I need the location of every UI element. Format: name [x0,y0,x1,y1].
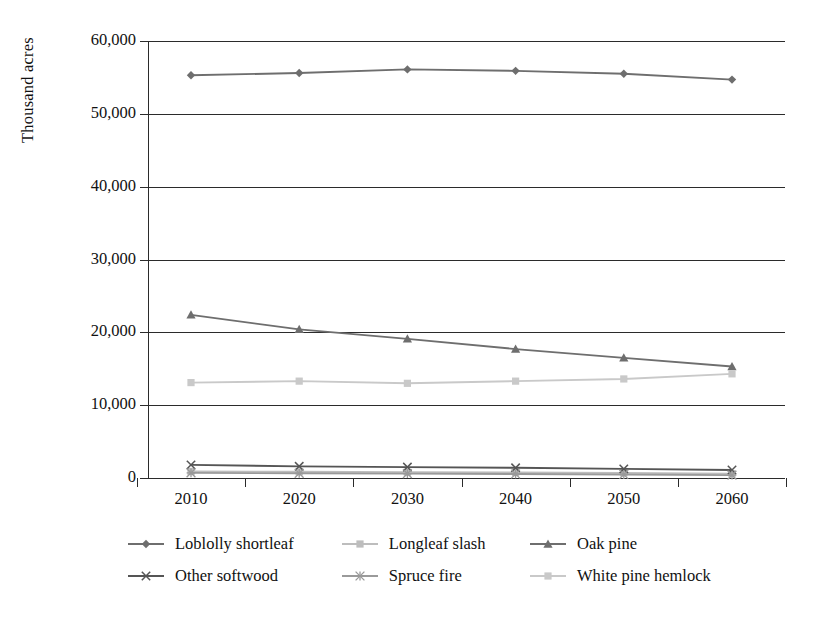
y-tick-mark [140,41,148,42]
y-tick-label: 40,000 [36,176,136,196]
x-tick-label: 2030 [362,489,452,509]
x-tick-label: 2020 [254,489,344,509]
y-tick-mark [140,114,148,115]
x-tick-mark [786,478,787,487]
y-tick-label: 10,000 [36,394,136,414]
legend-marker-diamond-icon [126,536,166,552]
x-tick-mark [245,478,246,487]
data-point-marker [544,572,551,579]
x-tick-label: 2050 [579,489,669,509]
gridline [148,187,785,188]
x-axis-line [148,478,785,479]
x-tick-mark [462,478,463,487]
y-tick-mark [140,260,148,261]
chart-legend: Loblolly shortleafLongleaf slashOak pine… [126,528,726,592]
gridline [148,260,785,261]
x-tick-label: 2010 [146,489,236,509]
data-point-marker [356,540,363,547]
data-point-marker [142,540,150,548]
gridline [148,41,785,42]
gridline [148,405,785,406]
data-point-marker [355,572,364,581]
y-tick-mark [140,405,148,406]
x-tick-mark [570,478,571,487]
legend-item[interactable]: Other softwood [126,568,340,585]
y-axis-line [148,41,149,478]
legend-item[interactable]: Spruce fire [340,568,528,585]
y-tick-mark [140,332,148,333]
gridline [148,114,785,115]
legend-marker-square-icon [528,568,568,584]
legend-label: Longleaf slash [389,536,486,553]
chart-figure: Thousand acres 010,00020,00030,00040,000… [0,0,814,627]
legend-marker-square-icon [340,536,380,552]
legend-row: Other softwoodSpruce fireWhite pine heml… [126,560,726,592]
legend-label: Other softwood [175,568,278,585]
y-tick-label: 50,000 [36,103,136,123]
x-tick-mark [678,478,679,487]
gridline [148,332,785,333]
x-tick-mark [137,478,138,487]
legend-marker-star-icon [340,568,380,584]
y-tick-mark [140,478,148,479]
y-tick-label: 60,000 [36,30,136,50]
y-tick-label: 0 [36,467,136,487]
legend-label: Oak pine [577,536,637,553]
legend-label: White pine hemlock [577,568,711,585]
y-tick-label: 20,000 [36,321,136,341]
legend-label: Loblolly shortleaf [175,536,294,553]
legend-item[interactable]: White pine hemlock [528,568,726,585]
x-tick-label: 2060 [687,489,777,509]
legend-item[interactable]: Oak pine [528,536,726,553]
legend-row: Loblolly shortleafLongleaf slashOak pine [126,528,726,560]
x-tick-label: 2040 [471,489,561,509]
plot-area [148,41,785,478]
legend-item[interactable]: Loblolly shortleaf [126,536,340,553]
legend-marker-x-icon [126,568,166,584]
y-tick-mark [140,187,148,188]
legend-marker-triangle-icon [528,536,568,552]
legend-item[interactable]: Longleaf slash [340,536,528,553]
x-tick-mark [353,478,354,487]
y-tick-label: 30,000 [36,249,136,269]
legend-label: Spruce fire [389,568,462,585]
